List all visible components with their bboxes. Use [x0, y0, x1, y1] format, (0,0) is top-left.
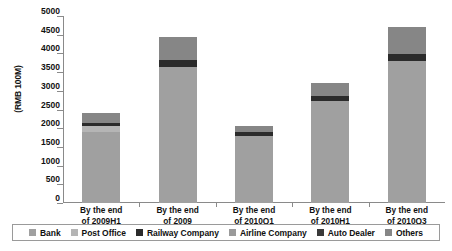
y-axis-tick-label: 500 — [26, 174, 60, 184]
x-axis-category-label-line: By the end — [139, 205, 215, 216]
legend-label: Railway Company — [147, 228, 219, 238]
stacked-bar-chart: (RMB 100M) 05001000150020002500300035004… — [0, 0, 452, 251]
plot-area: (RMB 100M) 05001000150020002500300035004… — [0, 0, 452, 212]
bar-segment-bank[interactable] — [388, 61, 426, 203]
x-axis-tick — [139, 203, 140, 207]
bar-segment-bank[interactable] — [82, 132, 120, 203]
x-axis-category-label-line: By the end — [292, 205, 368, 216]
legend-item[interactable]: Airline Company — [229, 228, 307, 238]
y-axis-tick-label: 0 — [26, 193, 60, 203]
bar-segment-others[interactable] — [82, 113, 120, 123]
legend-swatch-icon — [317, 229, 324, 236]
bar-slot — [216, 16, 292, 203]
bar-group — [63, 16, 445, 203]
bar-segment-bank[interactable] — [311, 101, 349, 203]
x-axis-tick — [369, 203, 370, 207]
legend-label: Auto Dealer — [328, 228, 375, 238]
bar-segment-others[interactable] — [235, 126, 273, 132]
y-axis-tick-label: 5000 — [26, 6, 60, 16]
x-axis-category-label-line: By the end — [63, 205, 139, 216]
legend-label: Post Office — [82, 228, 126, 238]
bar-slot — [369, 16, 445, 203]
bar-segment-others[interactable] — [311, 83, 349, 95]
x-axis-tick — [216, 203, 217, 207]
chart-legend: BankPost OfficeRailway CompanyAirline Co… — [12, 224, 440, 241]
bar-slot — [139, 16, 215, 203]
legend-swatch-icon — [385, 229, 392, 236]
legend-swatch-icon — [136, 229, 143, 236]
legend-item[interactable]: Bank — [29, 228, 61, 238]
stacked-bar[interactable] — [388, 27, 426, 203]
x-axis-category-label-line: By the end — [369, 205, 445, 216]
bar-segment-railway-company[interactable] — [311, 96, 349, 102]
legend-swatch-icon — [229, 229, 236, 236]
y-axis-tick-label: 2500 — [26, 100, 60, 110]
legend-item[interactable]: Post Office — [71, 228, 126, 238]
y-axis-tick-label: 2000 — [26, 118, 60, 128]
bar-segment-railway-company[interactable] — [82, 123, 120, 127]
y-axis-tick-label: 1500 — [26, 137, 60, 147]
bar-segment-railway-company[interactable] — [388, 54, 426, 61]
legend-label: Others — [396, 228, 423, 238]
y-axis-tick-label: 4500 — [26, 25, 60, 35]
stacked-bar[interactable] — [159, 37, 197, 203]
bar-segment-railway-company[interactable] — [159, 60, 197, 67]
stacked-bar[interactable] — [235, 126, 273, 203]
y-axis-tick-label: 1000 — [26, 156, 60, 166]
bar-segment-bank[interactable] — [159, 67, 197, 204]
y-axis-tick — [57, 203, 63, 204]
bar-segment-others[interactable] — [388, 27, 426, 54]
y-axis-title: (RMB 100M) — [13, 45, 23, 133]
legend-item[interactable]: Others — [385, 228, 423, 238]
x-axis-category-label-line: By the end — [216, 205, 292, 216]
stacked-bar[interactable] — [82, 113, 120, 204]
legend-item[interactable]: Railway Company — [136, 228, 219, 238]
stacked-bar[interactable] — [311, 83, 349, 203]
y-axis-tick-label: 4000 — [26, 43, 60, 53]
y-axis-tick-labels: 0500100015002000250030003500400045005000 — [26, 11, 60, 203]
legend-swatch-icon — [71, 229, 78, 236]
legend-swatch-icon — [29, 229, 36, 236]
bar-segment-others[interactable] — [159, 37, 197, 59]
legend-item[interactable]: Auto Dealer — [317, 228, 375, 238]
y-axis-tick-label: 3000 — [26, 81, 60, 91]
bar-segment-railway-company[interactable] — [235, 132, 273, 136]
bar-slot — [292, 16, 368, 203]
y-axis-tick-label: 3500 — [26, 62, 60, 72]
x-axis-tick — [292, 203, 293, 207]
bar-slot — [63, 16, 139, 203]
bar-segment-post-office[interactable] — [82, 126, 120, 132]
legend-label: Bank — [40, 228, 61, 238]
bar-segment-bank[interactable] — [235, 136, 273, 203]
legend-label: Airline Company — [240, 228, 307, 238]
